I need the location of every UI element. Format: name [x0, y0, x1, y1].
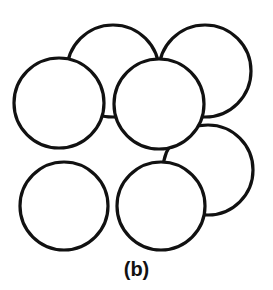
bottom-center-sphere	[117, 162, 205, 250]
packed-spheres-diagram	[0, 0, 273, 260]
center-sphere	[114, 59, 204, 149]
bottom-left-sphere	[20, 162, 108, 250]
figure-caption: (b)	[0, 255, 273, 283]
middle-left-sphere	[14, 58, 104, 148]
sphere-layer	[14, 25, 253, 250]
figure-container: (b)	[0, 0, 273, 290]
